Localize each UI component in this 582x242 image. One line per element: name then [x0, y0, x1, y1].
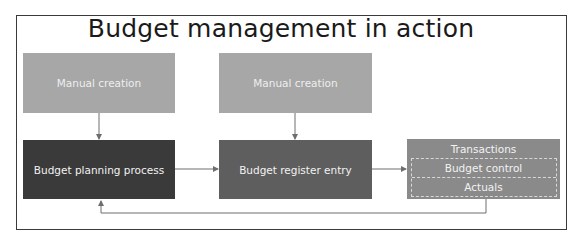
connectors	[0, 0, 582, 242]
arrow-feedback-to-planning	[101, 199, 486, 213]
